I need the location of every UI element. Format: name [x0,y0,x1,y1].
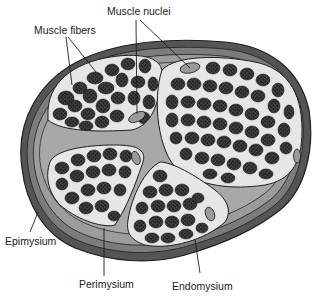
fascicle-upper-left [48,55,162,131]
nucleus [294,149,301,163]
leader-epimysium [30,212,38,232]
label-muscle-nuclei: Muscle nuclei [107,5,171,17]
label-endomysium: Endomysium [172,280,233,292]
muscle-cross-section-diagram [0,0,314,297]
label-muscle-fibers: Muscle fibers [34,24,96,36]
label-perimysium: Perimysium [79,278,134,290]
label-epimysium: Epimysium [5,235,56,247]
